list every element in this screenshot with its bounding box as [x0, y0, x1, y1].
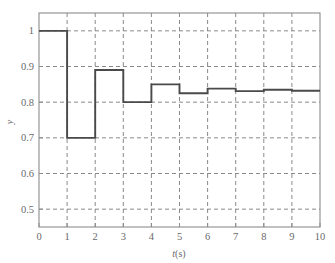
y-tick-label: 1 [29, 25, 34, 36]
x-tick-label: 9 [289, 231, 294, 242]
x-tick-label: 1 [64, 231, 69, 242]
y-tick-label: 0.8 [21, 97, 34, 108]
x-tick-label: 5 [177, 231, 182, 242]
y-tick-label: 0.9 [21, 61, 34, 72]
x-tick-label: 8 [261, 231, 266, 242]
y-tick-label: 0.6 [21, 168, 34, 179]
x-tick-label: 3 [121, 231, 126, 242]
step-response-chart: 012345678910 0.50.60.70.80.91 t(s) y [0, 0, 335, 263]
x-tick-label: 2 [93, 231, 98, 242]
y-tick-label: 0.7 [21, 132, 34, 143]
x-tick-label: 10 [315, 231, 326, 242]
x-tick-label: 6 [205, 231, 210, 242]
y-axis-title: y [4, 119, 15, 125]
y-tick-label: 0.5 [21, 204, 34, 215]
x-axis-title: t(s) [172, 248, 185, 260]
y-tick-labels: 0.50.60.70.80.91 [21, 25, 34, 214]
x-tick-label: 4 [149, 231, 155, 242]
x-tick-label: 7 [233, 231, 238, 242]
x-tick-label: 0 [36, 231, 41, 242]
x-tick-labels: 012345678910 [36, 231, 325, 242]
chart-figure: 012345678910 0.50.60.70.80.91 t(s) y [0, 0, 335, 263]
